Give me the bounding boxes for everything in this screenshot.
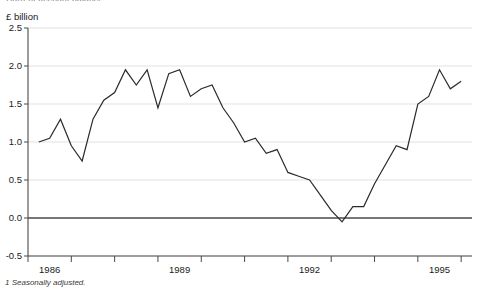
y-tick-label: 2.5 — [9, 22, 22, 33]
y-tick-label: 2.0 — [9, 60, 22, 71]
chart-container: Current account balance £ billion 2.52.0… — [0, 0, 480, 295]
y-tick-label: 0.5 — [9, 174, 22, 185]
data-series-line — [39, 70, 461, 222]
x-axis-group — [28, 256, 472, 262]
y-tick-label: 0.0 — [9, 212, 22, 223]
x-tick-label: 1995 — [429, 264, 450, 275]
y-tick-labels-group: 2.52.01.51.00.50.0-0.5 — [6, 22, 22, 261]
y-tick-label: 1.0 — [9, 136, 22, 147]
x-tick-label: 1986 — [39, 264, 60, 275]
y-tick-label: -0.5 — [6, 250, 22, 261]
x-tick-label: 1989 — [169, 264, 190, 275]
y-axis-group — [24, 28, 28, 256]
line-chart-plot: 2.52.01.51.00.50.0-0.5 1986198919921995 — [0, 0, 480, 295]
y-tick-label: 1.5 — [9, 98, 22, 109]
x-tick-labels-group: 1986198919921995 — [39, 264, 450, 275]
footnote-seasonally-adjusted: 1 Seasonally adjusted. — [5, 278, 86, 287]
data-series-group — [39, 70, 461, 222]
x-tick-label: 1992 — [299, 264, 320, 275]
gridlines-group — [28, 28, 472, 256]
